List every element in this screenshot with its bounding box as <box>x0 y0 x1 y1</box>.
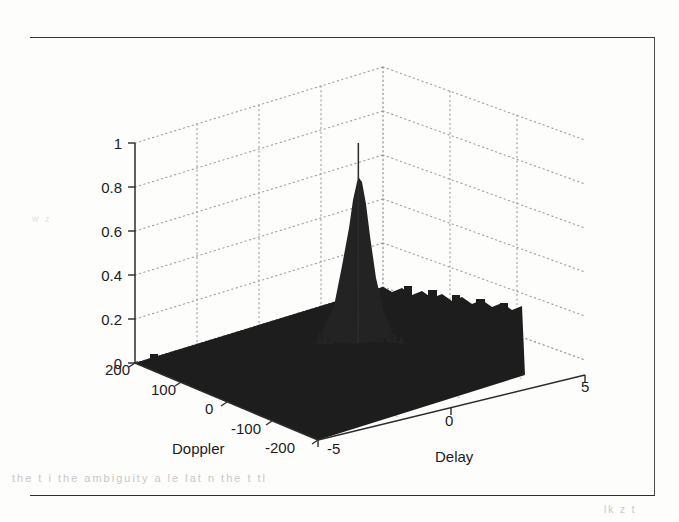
delay-tick-label: 5 <box>581 378 589 395</box>
z-tick-label: 0.8 <box>101 179 122 196</box>
scan-artifact-text: lk z t <box>604 504 637 515</box>
page-rule-bottom <box>30 495 655 496</box>
plot-canvas: 1 0.8 0.6 0.4 0.2 0 200 100 0 -100 -200 … <box>0 30 679 470</box>
surface-mesh <box>135 143 525 440</box>
doppler-tick-label: -200 <box>265 439 295 456</box>
surface-peak-tip <box>358 143 360 343</box>
doppler-tick-label: 0 <box>205 400 213 417</box>
delay-tick-label: 0 <box>445 412 453 429</box>
z-tick-label: 0.2 <box>101 311 122 328</box>
z-tick-label: 0.6 <box>101 223 122 240</box>
delay-tick-label: -5 <box>327 440 340 457</box>
doppler-tick-label: 200 <box>105 361 130 378</box>
scanned-page: w z the t i the ambiguity a le lat n the… <box>0 0 679 522</box>
scan-artifact-text: the t i the ambiguity a le lat n the t t… <box>12 472 267 484</box>
z-tick-label: 0.4 <box>101 267 122 284</box>
z-axis-tick-labels: 1 0.8 0.6 0.4 0.2 0 <box>101 135 122 372</box>
doppler-tick-label: -100 <box>231 420 261 437</box>
z-tick-label: 1 <box>114 135 122 152</box>
z-axis-ticks <box>128 143 135 363</box>
doppler-tick-label: 100 <box>151 381 176 398</box>
delay-axis-label: Delay <box>435 448 474 465</box>
doppler-axis-label: Doppler <box>172 440 225 457</box>
surface-plot-figure: 1 0.8 0.6 0.4 0.2 0 200 100 0 -100 -200 … <box>0 30 679 470</box>
